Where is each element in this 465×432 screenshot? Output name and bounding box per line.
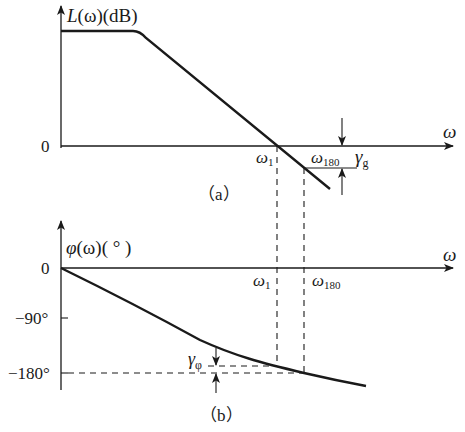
magnitude-curve (61, 31, 330, 189)
caption-b: （b） (200, 406, 243, 425)
bode-diagram: L(ω)(dB) 0 ω ω1 ω180 γg （a） (0, 0, 465, 432)
caption-a: （a） (198, 185, 240, 204)
phase-zero-label: 0 (41, 259, 50, 278)
phase-w180-label: ω180 (312, 271, 341, 291)
phase-y-label: φ(ω)( ° ) (66, 237, 131, 259)
phase-minus-180-label: −180° (8, 364, 50, 383)
magnitude-y-label: L(ω)(dB) (66, 5, 138, 27)
phase-margin-label: γφ (188, 349, 202, 372)
phase-w1-label: ω1 (253, 271, 271, 291)
magnitude-x-label: ω (443, 121, 456, 142)
phase-minus-90-label: −90° (15, 309, 48, 328)
phase-x-label: ω (443, 244, 456, 265)
magnitude-plot: L(ω)(dB) 0 ω ω1 ω180 γg （a） (41, 5, 456, 374)
phase-plot: φ(ω)( ° ) 0 −90° −180° ω ω1 ω180 γφ （b） (8, 221, 456, 425)
magnitude-w180-label: ω180 (311, 148, 340, 168)
magnitude-w1-label: ω1 (256, 148, 274, 168)
magnitude-zero-label: 0 (41, 137, 50, 156)
gain-margin-label: γg (355, 146, 369, 170)
